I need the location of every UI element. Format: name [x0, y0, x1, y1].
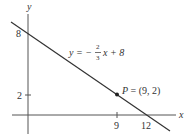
- equation-prefix: y = −: [68, 47, 92, 58]
- y-tick-label-8: 8: [16, 28, 21, 39]
- equation-label: y = − 2 3 x + 8: [68, 43, 124, 62]
- y-axis-label: y: [26, 1, 32, 12]
- equation-fraction-numerator: 2: [96, 43, 100, 51]
- point-p-marker: [115, 93, 119, 97]
- x-tick-label-12: 12: [141, 120, 151, 131]
- x-tick-label-9: 9: [114, 120, 119, 131]
- x-axis-label: x: [178, 109, 184, 120]
- line-graph-figure: y x 8 2 9 12 y = − 2 3 x + 8 P = (9, 2): [0, 0, 189, 136]
- equation-suffix: x + 8: [102, 47, 124, 58]
- y-tick-label-2: 2: [17, 90, 22, 101]
- point-p-label: P = (9, 2): [121, 85, 160, 97]
- graph-canvas: y x 8 2 9 12 y = − 2 3 x + 8 P = (9, 2): [0, 0, 189, 136]
- equation-fraction-denominator: 3: [96, 54, 100, 62]
- point-p-coords: = (9, 2): [128, 85, 160, 97]
